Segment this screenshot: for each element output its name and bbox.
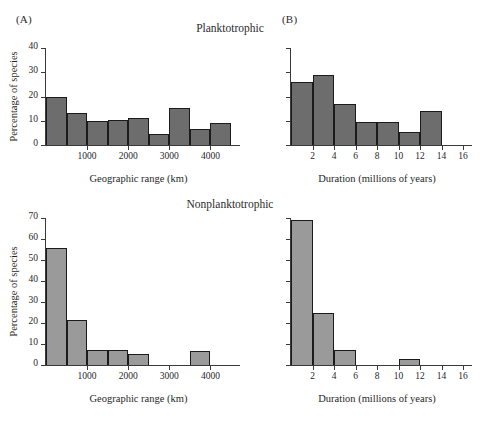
- y-axis-line: [290, 48, 291, 145]
- bar: [356, 122, 378, 145]
- y-tick: [41, 302, 45, 303]
- y-tick: [286, 281, 290, 282]
- bar: [46, 248, 67, 365]
- y-tick: [286, 72, 290, 73]
- bar: [377, 122, 399, 145]
- x-tick: [377, 366, 378, 370]
- x-tick: [87, 366, 88, 370]
- y-tick: [41, 323, 45, 324]
- y-tick: [41, 121, 45, 122]
- x-tick: [442, 366, 443, 370]
- bar: [313, 75, 335, 145]
- y-tick: [41, 260, 45, 261]
- bar: [67, 320, 88, 365]
- x-tick: [87, 146, 88, 150]
- y-tick: [41, 281, 45, 282]
- y-tick: [286, 365, 290, 366]
- bar: [291, 82, 313, 145]
- bar: [149, 134, 170, 145]
- chart-b-top: 246810121416Duration (millions of years): [253, 0, 503, 190]
- x-tick-label: 4000: [190, 151, 230, 161]
- plot-area-A-top: 0102030401000200030004000Geographic rang…: [46, 48, 231, 145]
- bar: [87, 121, 108, 145]
- x-tick: [334, 146, 335, 150]
- bar: [334, 104, 356, 145]
- x-axis-line: [290, 145, 472, 146]
- x-tick-label: 1000: [67, 371, 107, 381]
- y-tick: [286, 121, 290, 122]
- plot-area-B-top: 246810121416Duration (millions of years): [291, 48, 463, 145]
- y-tick: [41, 344, 45, 345]
- x-tick-label: 3000: [149, 371, 189, 381]
- bar: [399, 132, 421, 145]
- x-tick-label: 1000: [67, 151, 107, 161]
- x-tick: [313, 146, 314, 150]
- y-tick: [286, 239, 290, 240]
- bar: [46, 97, 67, 146]
- y-tick: [286, 323, 290, 324]
- x-tick: [377, 146, 378, 150]
- x-axis-title: Duration (millions of years): [291, 173, 463, 184]
- bar: [210, 123, 231, 145]
- y-tick: [41, 145, 45, 146]
- bar: [128, 118, 149, 145]
- bar: [190, 351, 211, 365]
- x-tick-label: 3000: [149, 151, 189, 161]
- y-tick: [286, 344, 290, 345]
- y-tick: [286, 97, 290, 98]
- x-tick-label: 2000: [108, 371, 148, 381]
- bar: [87, 350, 108, 365]
- y-tick: [41, 97, 45, 98]
- plot-area-B-bottom: 246810121416Duration (millions of years): [291, 218, 463, 365]
- bar: [108, 350, 129, 365]
- y-axis-line: [45, 218, 46, 365]
- bar: [108, 120, 129, 145]
- y-axis-line: [290, 218, 291, 365]
- y-tick: [41, 48, 45, 49]
- y-axis-title: Percentage of species: [8, 218, 19, 365]
- x-tick-label: 4000: [190, 371, 230, 381]
- y-axis-title: Percentage of species: [8, 48, 19, 145]
- y-axis-line: [45, 48, 46, 145]
- x-tick: [463, 146, 464, 150]
- x-tick: [210, 146, 211, 150]
- x-tick: [169, 146, 170, 150]
- bar: [334, 350, 356, 365]
- x-tick: [169, 366, 170, 370]
- x-tick: [463, 366, 464, 370]
- y-tick: [286, 48, 290, 49]
- x-tick: [128, 366, 129, 370]
- y-tick: [286, 145, 290, 146]
- chart-a-bottom: 0102030405060701000200030004000Geographi…: [0, 196, 250, 427]
- chart-a-top: 0102030401000200030004000Geographic rang…: [0, 0, 250, 190]
- bar: [291, 220, 313, 365]
- chart-b-bottom: 246810121416Duration (millions of years): [253, 196, 503, 427]
- bar: [169, 108, 190, 145]
- x-axis-line: [290, 365, 472, 366]
- bar: [420, 111, 442, 145]
- y-tick: [41, 239, 45, 240]
- x-tick: [356, 366, 357, 370]
- x-tick: [334, 366, 335, 370]
- x-axis-title: Geographic range (km): [46, 393, 231, 404]
- x-tick: [128, 146, 129, 150]
- x-tick: [399, 146, 400, 150]
- y-tick: [286, 260, 290, 261]
- y-tick: [286, 302, 290, 303]
- x-tick: [420, 146, 421, 150]
- y-tick: [286, 218, 290, 219]
- x-tick: [313, 366, 314, 370]
- figure-root: (A) (B) Planktotrophic Nonplanktotrophic…: [0, 0, 503, 427]
- x-tick: [210, 366, 211, 370]
- x-tick-label: 16: [443, 151, 483, 161]
- x-tick: [399, 366, 400, 370]
- bar: [313, 313, 335, 366]
- x-tick: [442, 146, 443, 150]
- x-tick: [420, 366, 421, 370]
- x-axis-title: Duration (millions of years): [291, 393, 463, 404]
- bar: [67, 113, 88, 145]
- x-tick-label: 2000: [108, 151, 148, 161]
- y-tick: [41, 72, 45, 73]
- y-tick: [41, 218, 45, 219]
- plot-area-A-bottom: 0102030405060701000200030004000Geographi…: [46, 218, 231, 365]
